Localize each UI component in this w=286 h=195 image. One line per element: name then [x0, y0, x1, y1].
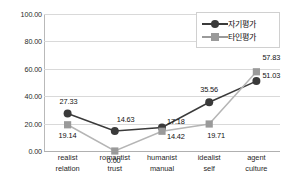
series-line-2 [68, 72, 257, 151]
data-label: 14.63 [117, 115, 135, 124]
y-axis-tick: 40.00 [2, 92, 42, 101]
y-axis-tick: 0.00 [2, 147, 42, 156]
data-label: 17.18 [167, 117, 185, 126]
data-point-marker [158, 128, 165, 135]
data-point-marker [205, 98, 213, 106]
x-axis-tick: agentculture [228, 153, 284, 174]
data-label: 57.83 [262, 53, 280, 62]
data-label: 19.71 [207, 131, 225, 140]
y-axis: 0.0020.0040.0060.0080.00100.00 [0, 14, 42, 151]
chart-container: 0.0020.0040.0060.0080.00100.00 27.3314.6… [0, 0, 286, 195]
x-axis-tick-line2: culture [228, 164, 284, 175]
data-point-marker [64, 110, 72, 118]
data-point-marker [111, 127, 119, 135]
data-label: 19.14 [59, 131, 77, 140]
data-point-marker [206, 120, 213, 127]
legend-item-label: 타인평가 [228, 31, 256, 42]
y-axis-tick: 80.00 [2, 37, 42, 46]
data-point-marker [253, 68, 260, 75]
x-axis-baseline [44, 151, 280, 152]
y-axis-tick: 100.00 [2, 10, 42, 19]
data-label: 14.42 [167, 132, 185, 141]
legend-item-1[interactable]: 자기평가 [202, 17, 276, 30]
data-label: 35.56 [200, 85, 218, 94]
data-label: 27.33 [60, 97, 78, 106]
x-axis: realistrelationromantisttrusthumanistman… [44, 153, 280, 193]
square-marker-icon [202, 31, 228, 43]
chart-legend: 자기평가타인평가 [196, 12, 280, 48]
legend-item-2[interactable]: 타인평가 [202, 30, 276, 43]
data-point-marker [252, 77, 260, 85]
y-axis-tick: 20.00 [2, 119, 42, 128]
circle-marker-icon [202, 18, 228, 30]
legend-item-label: 자기평가 [228, 18, 256, 29]
data-label: 51.03 [262, 71, 280, 80]
y-axis-tick: 60.00 [2, 64, 42, 73]
data-point-marker [64, 121, 71, 128]
x-axis-tick-line1: agent [228, 153, 284, 164]
